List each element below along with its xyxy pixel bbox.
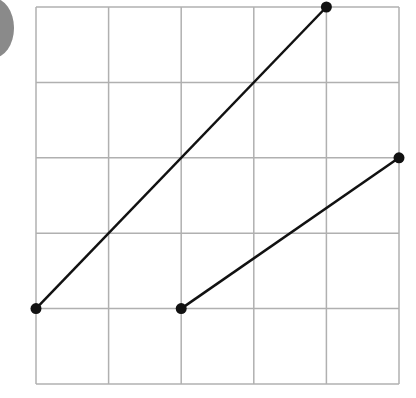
endpoint-dot (176, 303, 187, 314)
endpoint-dot (31, 303, 42, 314)
grid-diagram (0, 0, 416, 398)
endpoint-dot (394, 152, 405, 163)
endpoint-dot (321, 2, 332, 13)
